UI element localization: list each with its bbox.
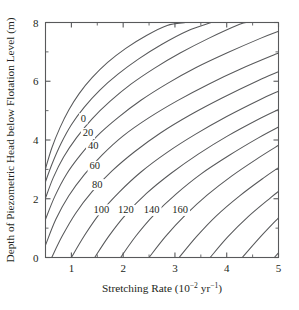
y-tick-label-2: 2: [33, 193, 39, 205]
x-tick-label-3: 3: [172, 262, 178, 274]
x-tick-label-1: 1: [69, 262, 75, 274]
contour-label-160: 160: [172, 204, 188, 215]
contour-line-220: [210, 191, 278, 257]
contour-line-160: [121, 127, 279, 257]
contour-line-120: [71, 91, 278, 257]
contour-line-200: [179, 168, 278, 258]
x-axis-title: Stretching Rate (10−2 yr−1): [102, 281, 222, 295]
contour-line-100: [52, 72, 279, 258]
contour-label-140: 140: [144, 204, 160, 215]
contour-label-0: 0: [81, 113, 86, 124]
y-tick-label-8: 8: [33, 17, 39, 29]
y-tick-label-6: 6: [33, 75, 39, 87]
x-tick-label-5: 5: [276, 262, 282, 274]
contour-label-80: 80: [92, 179, 103, 190]
plot-svg: 0204060801001201401601234502468Depth of …: [0, 0, 299, 310]
contour-label-100: 100: [94, 204, 110, 215]
contour-line-60: [46, 31, 279, 219]
contour-label-20: 20: [83, 127, 94, 138]
contour-line-80: [46, 53, 279, 245]
contour-line-40: [46, 22, 248, 198]
contour-label-60: 60: [89, 160, 100, 171]
contour-line-260: [274, 253, 278, 258]
contour-label-120: 120: [118, 204, 134, 215]
x-tick-label-4: 4: [224, 262, 230, 274]
y-axis-title: Depth of Piezometric Head below Flotatio…: [4, 17, 17, 262]
contour-lines-group: [46, 22, 279, 257]
y-tick-label-0: 0: [33, 252, 39, 264]
x-tick-label-2: 2: [120, 262, 126, 274]
plot-frame: [46, 23, 279, 258]
contour-line-240: [242, 218, 278, 258]
contour-line-140: [95, 109, 279, 257]
contour-label-40: 40: [88, 140, 99, 151]
contour-line-0: [46, 23, 186, 169]
contour-chart-figure: 0204060801001201401601234502468Depth of …: [0, 0, 299, 310]
y-tick-label-4: 4: [33, 134, 39, 146]
